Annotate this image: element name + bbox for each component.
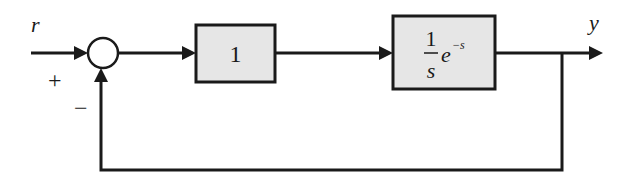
plant-denominator: s (427, 58, 436, 83)
plant-exp-power: −s (452, 38, 465, 52)
input-label-r: r (31, 12, 40, 37)
block-diagram: r + − 1 1 s e −s y (0, 0, 634, 184)
plus-sign: + (48, 67, 62, 93)
minus-sign: − (74, 95, 88, 121)
output-label-y: y (587, 10, 599, 35)
output-arrowhead (589, 46, 603, 60)
control-arrowhead (379, 46, 393, 60)
summing-junction (88, 38, 118, 68)
plant-numerator: 1 (426, 26, 437, 51)
controller-gain-text: 1 (230, 41, 242, 67)
error-arrowhead (182, 46, 196, 60)
plant-exp-base: e (441, 42, 451, 67)
input-arrowhead (74, 46, 88, 60)
feedback-arrowhead (94, 68, 108, 82)
